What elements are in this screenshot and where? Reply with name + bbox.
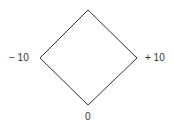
diamond-outline [40,10,137,105]
diamond-shape [0,0,174,129]
label-left-negative-ten: − 10 [9,52,29,64]
label-right-positive-ten: + 10 [145,52,165,64]
diagram-canvas: − 10 + 10 0 [0,0,174,129]
label-bottom-zero: 0 [85,111,91,123]
